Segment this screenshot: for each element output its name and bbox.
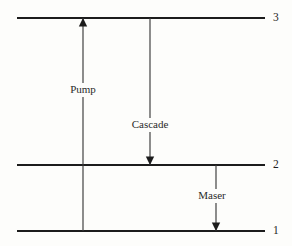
cascade-arrowhead-down	[146, 157, 154, 166]
cascade-label: Cascade	[132, 118, 169, 130]
energy-level-diagram-container: 3 2 1 Pump Cascade Maser	[0, 0, 292, 246]
energy-level-label-3: 3	[273, 11, 279, 23]
pump-arrowhead-up	[79, 18, 87, 27]
maser-label: Maser	[198, 189, 226, 201]
energy-level-label-2: 2	[273, 158, 279, 170]
transition-pump: Pump	[67, 18, 99, 231]
maser-arrowhead-down	[212, 223, 220, 232]
energy-level-diagram: 3 2 1 Pump Cascade Maser	[0, 0, 292, 246]
transition-cascade: Cascade	[125, 18, 175, 165]
energy-level-label-1: 1	[273, 224, 279, 236]
transition-maser: Maser	[193, 165, 231, 231]
pump-label: Pump	[70, 83, 96, 95]
